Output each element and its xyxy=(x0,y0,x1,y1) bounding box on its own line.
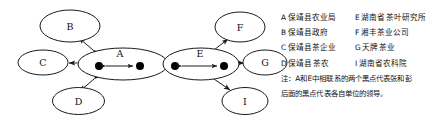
legend-entry-c: C保靖县茶企业 xyxy=(281,40,355,55)
legend-text-i: 湖南省农科院 xyxy=(359,59,408,68)
legend-entry-d: D保靖县茶农 xyxy=(281,56,355,71)
dot-e-left xyxy=(171,62,179,70)
node-a-label: A xyxy=(116,48,124,59)
relationship-diagram: B C D A E F G I xyxy=(0,0,292,122)
legend-entry-f: F湘丰茶业公司 xyxy=(355,25,409,40)
diagram-canvas: B C D A E F G I xyxy=(0,0,292,122)
node-g-label: G xyxy=(261,57,269,68)
legend-text-d: 保靖县茶农 xyxy=(288,59,329,68)
node-b-label: B xyxy=(67,21,74,32)
node-i-label: I xyxy=(243,96,247,107)
legend-entry-e: E湖南省茶叶研究所 xyxy=(355,10,426,25)
legend-entry-a: A保靖县农业局 xyxy=(281,10,355,25)
legend-text-c: 保靖县茶企业 xyxy=(288,43,337,52)
legend-entry-b: B保靖县政府 xyxy=(281,25,355,40)
dot-a-left xyxy=(95,62,103,70)
legend-key-c: C xyxy=(281,40,288,55)
legend-entry-g: G天牌茶业 xyxy=(355,40,395,55)
legend-text-b: 保靖县政府 xyxy=(288,28,329,37)
legend-row: A保靖县农业局 E湖南省茶叶研究所 xyxy=(281,10,444,25)
dot-a-right xyxy=(136,62,144,70)
legend-panel: A保靖县农业局 E湖南省茶叶研究所 B保靖县政府 F湘丰茶业公司 C保靖县茶企业… xyxy=(281,10,444,114)
node-c-label: C xyxy=(39,57,46,68)
legend-key-a: A xyxy=(281,10,288,25)
edge-e-i xyxy=(214,79,230,90)
legend-text-a: 保靖县农业局 xyxy=(288,13,337,22)
legend-entry-i: I湖南省农科院 xyxy=(355,56,407,71)
dot-e-right xyxy=(220,62,228,70)
legend-note-line-2: 后面的黑点代表各自单位的领导。 xyxy=(281,86,444,101)
legend-row: D保靖县茶农 I湖南省农科院 xyxy=(281,56,444,71)
legend-row: B保靖县政府 F湘丰茶业公司 xyxy=(281,25,444,40)
legend-text-f: 湘丰茶业公司 xyxy=(361,28,410,37)
legend-note-line-1: 注：A和E中相联系的两个黑点代表张和彭 xyxy=(281,71,444,86)
diagram-figure: B C D A E F G I A保靖县农业局 E湖南省茶叶研究所 B保靖县政府 xyxy=(0,0,444,122)
node-e-label: E xyxy=(197,48,204,59)
legend-key-b: B xyxy=(281,25,288,40)
node-f-label: F xyxy=(237,22,244,33)
legend-text-e: 湖南省茶叶研究所 xyxy=(361,13,426,22)
legend-row: C保靖县茶企业 G天牌茶业 xyxy=(281,40,444,55)
edge-e-f xyxy=(214,39,228,50)
node-d-label: D xyxy=(75,96,83,107)
legend-text-g: 天牌茶业 xyxy=(362,43,394,52)
